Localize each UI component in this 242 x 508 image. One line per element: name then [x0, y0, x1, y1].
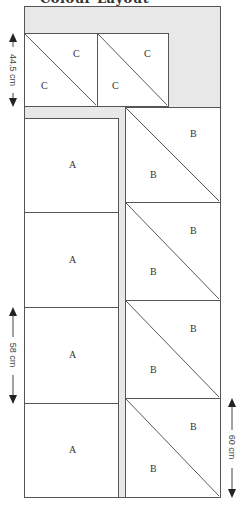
- dimension-a-height: 58 cm: [6, 307, 20, 404]
- block-label: B: [190, 128, 197, 139]
- block-b-2: B B: [125, 202, 221, 301]
- block-label: B: [150, 266, 157, 277]
- diagonal-line: [126, 301, 220, 398]
- block-label: B: [150, 463, 157, 474]
- block-label: B: [190, 323, 197, 334]
- dimension-b-height: 60 cm: [225, 398, 239, 498]
- block-c-1: C C: [24, 33, 98, 107]
- diagonal-line: [126, 399, 220, 497]
- block-label: C: [41, 80, 48, 91]
- diagonal-line: [126, 203, 220, 300]
- block-label: A: [69, 254, 76, 265]
- block-label: B: [190, 421, 197, 432]
- block-label: B: [150, 169, 157, 180]
- block-a-2: A: [24, 212, 119, 308]
- block-a-4: A: [24, 403, 119, 498]
- block-b-4: B B: [125, 398, 221, 498]
- block-a-1: A: [24, 118, 119, 213]
- dimension-label: 44.5 cm: [8, 47, 18, 93]
- dimension-label: 58 cm: [8, 332, 18, 378]
- block-label: C: [144, 48, 151, 59]
- dimension-c-height: 44.5 cm: [6, 33, 20, 107]
- dimension-label: 60 cm: [227, 424, 237, 470]
- block-label: C: [112, 80, 119, 91]
- block-label: B: [190, 225, 197, 236]
- block-a-3: A: [24, 307, 119, 404]
- block-b-1: B B: [125, 107, 221, 203]
- block-label: B: [150, 364, 157, 375]
- diagonal-line: [126, 108, 220, 202]
- block-label: C: [73, 48, 80, 59]
- block-b-3: B B: [125, 300, 221, 399]
- block-label: A: [69, 159, 76, 170]
- diagonal-line: [98, 34, 168, 106]
- block-c-2: C C: [97, 33, 169, 107]
- block-label: A: [69, 444, 76, 455]
- diagonal-line: [25, 34, 97, 106]
- block-label: A: [69, 349, 76, 360]
